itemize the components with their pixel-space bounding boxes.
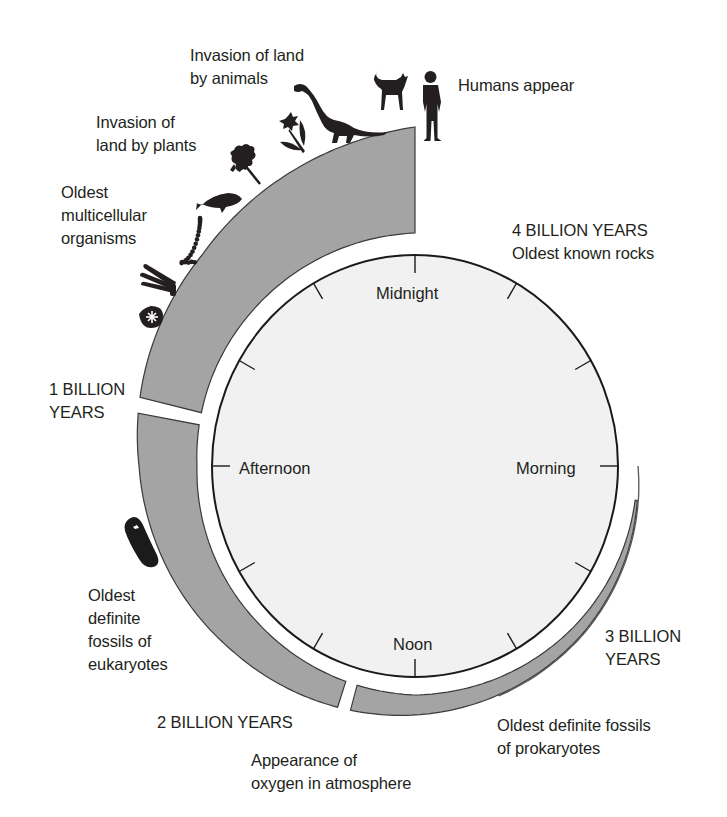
label-eukaryotes-line2: definite	[88, 607, 168, 630]
label-humans-appear: Humans appear	[458, 74, 574, 97]
label-oxygen: Appearance of oxygen in atmosphere	[251, 749, 411, 795]
clock-label-afternoon: Afternoon	[239, 458, 311, 478]
label-prokaryotes-line2: of prokaryotes	[497, 737, 651, 760]
label-animals-line1: Invasion of land	[190, 44, 304, 67]
label-one-billion-line2: YEARS	[49, 401, 125, 424]
label-humans-text: Humans appear	[458, 74, 574, 97]
label-animals-line2: by animals	[190, 67, 304, 90]
label-four-billion: 4 BILLION YEARS Oldest known rocks	[512, 219, 654, 265]
label-eukaryotes-line1: Oldest	[88, 584, 168, 607]
label-oxygen-line1: Appearance of	[251, 749, 411, 772]
clock-label-midnight: Midnight	[376, 283, 438, 303]
fish-icon	[196, 193, 242, 213]
label-invasion-animals: Invasion of land by animals	[190, 44, 304, 90]
label-oldest-prokaryotes: Oldest definite fossils of prokaryotes	[497, 714, 651, 760]
sponge-icon	[140, 264, 176, 296]
geologic-clock-figure: Midnight Afternoon Morning Noon Humans a…	[0, 0, 727, 817]
human-icon	[423, 71, 442, 141]
label-multicellular-line1: Oldest	[61, 181, 147, 204]
label-one-billion: 1 BILLION YEARS	[49, 378, 125, 424]
label-three-billion-line2: YEARS	[605, 648, 681, 671]
label-two-billion-text: 2 BILLION YEARS	[157, 711, 293, 734]
label-plants-line1: Invasion of	[96, 111, 196, 134]
label-one-billion-line1: 1 BILLION	[49, 378, 125, 401]
cell-icon	[139, 306, 163, 328]
label-eukaryotes-line4: eukaryotes	[88, 653, 168, 676]
label-oldest-eukaryotes: Oldest definite fossils of eukaryotes	[88, 584, 168, 676]
label-plants-line2: land by plants	[96, 134, 196, 157]
label-prokaryotes-line1: Oldest definite fossils	[497, 714, 651, 737]
label-four-billion-line1: 4 BILLION YEARS	[512, 219, 654, 242]
moss-plant-icon	[230, 144, 260, 184]
dinosaur-icon	[294, 84, 388, 143]
label-multicellular-line3: organisms	[61, 227, 147, 250]
label-invasion-plants: Invasion of land by plants	[96, 111, 196, 157]
label-multicellular-line2: multicellular	[61, 204, 147, 227]
label-two-billion: 2 BILLION YEARS	[157, 711, 293, 734]
label-three-billion: 3 BILLION YEARS	[605, 625, 681, 671]
label-three-billion-line1: 3 BILLION	[605, 625, 681, 648]
label-oldest-multicellular: Oldest multicellular organisms	[61, 181, 147, 250]
label-oxygen-line2: oxygen in atmosphere	[251, 772, 411, 795]
label-four-billion-line2: Oldest known rocks	[512, 242, 654, 265]
dog-icon	[374, 71, 408, 110]
label-eukaryotes-line3: fossils of	[88, 630, 168, 653]
clock-label-morning: Morning	[516, 458, 576, 478]
flower-icon	[279, 112, 305, 152]
clock-label-noon: Noon	[393, 634, 432, 654]
